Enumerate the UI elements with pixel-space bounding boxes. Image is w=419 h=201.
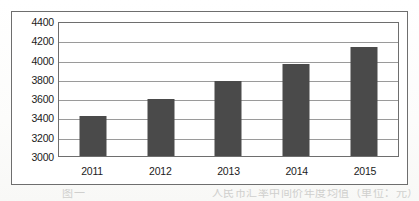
x-axis-tick-label-2015: 2015 xyxy=(331,160,399,182)
bar-slot xyxy=(262,23,330,156)
y-axis-tick-label: 3400 xyxy=(12,113,54,123)
bar-slot xyxy=(195,23,263,156)
bar-2014[interactable] xyxy=(283,64,310,156)
y-axis-tick-label: 3800 xyxy=(12,75,54,85)
y-axis-tick-label: 4000 xyxy=(12,56,54,66)
bar-2012[interactable] xyxy=(147,99,174,156)
y-axis: 4400 4200 4000 3800 3600 3400 3200 3000 xyxy=(12,12,57,157)
bars-layer xyxy=(59,23,398,156)
figure-caption-strip: 图一 人民币汇率中间价年度均值（单位：元） xyxy=(0,189,419,201)
x-axis-tick-label-2013: 2013 xyxy=(194,160,262,182)
y-axis-tick-label: 4400 xyxy=(12,17,54,27)
x-axis-tick-label-2014: 2014 xyxy=(263,160,331,182)
bar-slot xyxy=(330,23,398,156)
bar-2015[interactable] xyxy=(351,47,378,156)
bar-slot xyxy=(127,23,195,156)
plot-area xyxy=(58,22,399,157)
x-axis-tick-label-2011: 2011 xyxy=(58,160,126,182)
y-axis-tick-label: 4200 xyxy=(12,36,54,46)
x-axis-tick-label-2012: 2012 xyxy=(126,160,194,182)
y-axis-tick-label: 3600 xyxy=(12,94,54,104)
y-axis-tick-label: 3000 xyxy=(12,152,54,162)
chart-figure-frame: 4400 4200 4000 3800 3600 3400 3200 3000 xyxy=(11,11,408,185)
x-axis: 2011 2012 2013 2014 2015 xyxy=(58,160,399,182)
bar-2011[interactable] xyxy=(79,116,106,156)
bar-slot xyxy=(59,23,127,156)
bar-2013[interactable] xyxy=(215,81,242,156)
y-axis-tick-label: 3200 xyxy=(12,133,54,143)
figure-caption: 图一 人民币汇率中间价年度均值（单位：元） xyxy=(62,189,419,200)
